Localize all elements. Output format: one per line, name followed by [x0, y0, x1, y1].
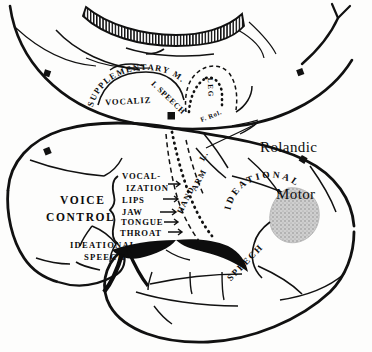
medial-precentral-dashed-2 [229, 73, 237, 110]
medial-sulcus-e [249, 22, 276, 54]
orbital-sulcus [76, 262, 100, 270]
outline-marker [296, 68, 304, 76]
vertex-junction-marker [168, 112, 176, 120]
rolandic-motor-callout: Rolandic Motor [260, 108, 317, 234]
frontal-sulcus-1 [30, 160, 104, 176]
temporal-sulcus-4 [190, 272, 192, 294]
frontal-sulcus-2 [104, 158, 122, 176]
ideational-speech-label-line2: SPEECH [84, 253, 126, 262]
y-fork-stem [302, 18, 338, 64]
voice-control-item-tongue: TONGUE [121, 218, 164, 227]
rolandic-motor-line1: Rolandic [260, 140, 317, 156]
medial-sulcus-c [146, 49, 164, 54]
voice-control-item-lips: LIPS [122, 196, 145, 205]
medial-sulcus-d [238, 30, 264, 58]
voice-control-label-line1: VOICE [60, 194, 105, 206]
voice-control-item-ization: IZATION [126, 184, 169, 193]
temporal-sulcus-9 [166, 250, 190, 260]
voice-control-item-vocal: VOCAL- [122, 172, 161, 181]
y-fork-branch-left [332, 4, 338, 18]
voice-control-label-line2: CONTROL [46, 211, 115, 223]
ideational-speech-label-line1: IDEATIONAL [70, 241, 137, 250]
voice-control-item-throat: THROAT [120, 229, 162, 238]
temporal-sulcus-5 [222, 272, 224, 300]
temporal-sulcus-7 [258, 266, 302, 294]
medial-central-sulcus-dotted [189, 78, 206, 112]
corpus-callosum-hatched-band [83, 7, 244, 46]
medial-sulcus-a [16, 28, 96, 66]
frontal-pole-border [8, 190, 58, 282]
paracentral-edge [236, 86, 252, 112]
orbital-sulcus-2 [36, 258, 70, 264]
leg-medial-label: LEG [206, 78, 214, 99]
brain-speech-areas-figure: SUPPLEMENTARY M. IDEATIONAL VOCALIZ I. S… [0, 0, 372, 352]
outline-marker [43, 147, 52, 156]
voice-control-brace [110, 176, 118, 244]
y-fork-branch-right [338, 6, 350, 18]
voice-control-item-jaw: JAW [122, 208, 143, 217]
rolandic-motor-line2: Motor [260, 187, 317, 203]
temporal-sulcus-6 [154, 306, 172, 324]
medial-sulcus-b [126, 48, 214, 56]
temporal-sulcus-3 [148, 272, 152, 290]
